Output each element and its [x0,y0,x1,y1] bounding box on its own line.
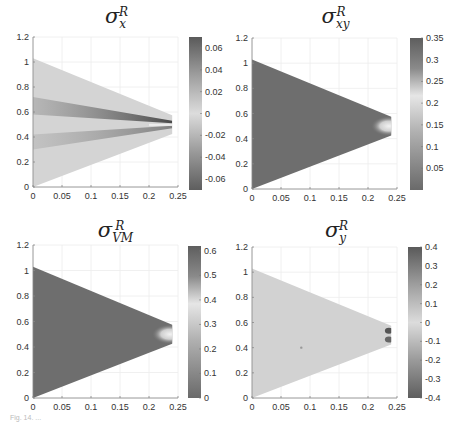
x-tick-label: 0.25 [169,191,187,201]
colorbar-tick-label: 0.05 [426,163,444,173]
colorbar-tick-label: 0.3 [425,261,438,271]
y-tick-label: 1.2 [16,240,29,250]
colorbar-tick-label: 0.4 [204,295,217,305]
y-tick-label: 1.2 [235,242,248,252]
x-tick-label: 0.05 [272,402,290,412]
y-tick-label: 0 [24,182,29,192]
wedge-domain [33,267,172,398]
colorbar-tick-label: 0 [204,393,209,403]
x-tick-label: 0.05 [272,193,290,203]
y-tick-label: 1 [24,266,29,276]
colorbar-tick-label: 0.04 [205,65,223,75]
wedge-domain [252,59,391,189]
wedge-domain [252,268,391,398]
y-tick-label: 0.4 [235,134,248,144]
field-features [371,116,407,136]
colorbar-tick-label: 0.2 [204,344,217,354]
x-tick-label: 0.05 [53,191,71,201]
colorbar-tick-label: -0.02 [205,130,226,140]
colorbar-tick-label: 0.6 [204,246,217,256]
colorbar-tick-label: 0.35 [426,33,444,43]
y-tick-label: 0.6 [16,107,29,117]
figure-caption: Fig. 14. ... [10,414,41,421]
colorbar-tick-label: 0.25 [426,76,444,86]
y-tick-label: 0.2 [235,159,248,169]
colorbar-tick-label: -0.06 [205,174,226,184]
colorbar [408,247,422,398]
x-tick-label: 0.1 [85,191,98,201]
y-tick-label: 0.8 [235,292,248,302]
x-tick-label: 0.25 [388,402,406,412]
colorbar-tick-label: 0.15 [426,120,444,130]
colorbar [410,38,423,190]
y-tick-label: 0.6 [235,109,248,119]
heatmap-plot: 00.050.10.150.20.2500.20.40.60.811.20.06… [0,0,230,215]
y-tick-label: 0.6 [235,318,248,328]
y-tick-label: 0.4 [235,343,248,353]
y-tick-label: 1 [24,57,29,67]
y-tick-label: 0.4 [16,132,29,142]
y-tick-label: 0.4 [16,342,29,352]
colorbar-tick-label: 0.5 [204,270,217,280]
heatmap-plot: 00.050.10.150.20.2500.20.40.60.811.20.35… [230,0,455,215]
colorbar-tick-label: 0.1 [425,299,438,309]
y-tick-label: 0.2 [16,157,29,167]
x-tick-label: 0 [30,191,35,201]
x-tick-label: 0.15 [111,191,129,201]
x-tick-label: 0.2 [143,191,156,201]
x-tick-label: 0.05 [53,402,71,412]
colorbar-tick-label: 0.1 [204,368,217,378]
x-tick-label: 0.1 [85,402,98,412]
x-tick-label: 0 [249,193,254,203]
x-tick-label: 0.15 [111,402,129,412]
colorbar-tick-label: 0.2 [426,98,439,108]
colorbar-tick-label: -0.1 [425,336,441,346]
colorbar-tick-label: -0.2 [425,355,441,365]
y-tick-label: 0.2 [235,368,248,378]
x-tick-label: 0.2 [143,402,156,412]
y-tick-label: 0.8 [16,82,29,92]
y-tick-label: 1 [243,267,248,277]
colorbar-tick-label: 0.4 [425,242,438,252]
y-tick-label: 0 [24,393,29,403]
colorbar-tick-label: 0.3 [426,55,439,65]
colorbar-tick-label: -0.3 [425,374,441,384]
y-tick-label: 0.8 [235,83,248,93]
panel-sigma-xy: σxyR 00.050.10.150.20.2500.20.40.60.811.… [230,0,455,215]
x-tick-label: 0 [30,402,35,412]
colorbar-tick-label: 0.06 [205,43,223,53]
colorbar-tick-label: -0.04 [205,152,226,162]
colorbar-tick-label: 0.02 [205,87,223,97]
colorbar [188,246,201,398]
y-tick-label: 0 [243,393,248,403]
x-tick-label: 0.2 [362,193,375,203]
panel-sigma-x: σxR 00.050.10.150.20.2500.20.40.60.811.2… [0,0,230,215]
x-tick-label: 0.25 [169,402,187,412]
x-tick-label: 0.2 [362,402,375,412]
colorbar-tick-label: 0.3 [204,319,217,329]
colorbar-tick-label: 0.1 [426,142,439,152]
y-tick-label: 1 [243,58,248,68]
panel-sigma-vm: σVMR 00.050.10.150.20.2500.20.40.60.811.… [0,215,230,428]
x-tick-label: 0.15 [330,193,348,203]
heatmap-plot: 00.050.10.150.20.2500.20.40.60.811.20.40… [230,215,455,428]
panel-sigma-y: σyR 00.050.10.150.20.2500.20.40.60.811.2… [230,215,455,428]
x-tick-label: 0.1 [304,193,317,203]
x-tick-label: 0 [249,402,254,412]
y-tick-label: 0.2 [16,368,29,378]
wedge-domain [33,58,172,187]
heatmap-plot: 00.050.10.150.20.2500.20.40.60.811.20.60… [0,215,230,428]
y-tick-label: 0 [243,184,248,194]
colorbar-tick-label: -0.4 [425,393,441,403]
colorbar-tick-label: 0.2 [425,280,438,290]
x-tick-label: 0.15 [330,402,348,412]
field-features [152,324,188,344]
x-tick-label: 0.25 [388,193,406,203]
y-tick-label: 0.6 [16,317,29,327]
y-tick-label: 0.8 [16,291,29,301]
y-tick-label: 1.2 [235,33,248,43]
x-tick-label: 0.1 [304,402,317,412]
colorbar-tick-label: 0 [425,318,430,328]
y-tick-label: 1.2 [16,32,29,42]
colorbar-tick-label: 0 [205,109,210,119]
